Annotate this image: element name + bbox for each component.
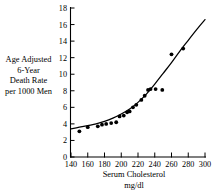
x-axis-label: Serum Cholesterol mg/dl [55,170,213,191]
y-tick-label: 12 [59,54,67,63]
data-point [100,123,104,127]
y-axis-label-line-4: per 1000 Men [0,87,57,98]
x-axis-tick-labels: 140160180200220240260280300 [65,160,211,169]
x-tick-label: 180 [98,160,110,169]
x-tick-label: 160 [82,160,94,169]
data-point [149,87,153,91]
x-tick-label: 280 [182,160,194,169]
x-tick-label: 220 [132,160,144,169]
y-axis-tick-labels: 024681012141618 [59,4,67,162]
scatter-chart-figure: 024681012141618 140160180200220240260280… [0,0,213,194]
x-tick-label: 300 [199,160,211,169]
data-point [154,87,158,91]
x-tick-label: 200 [115,160,127,169]
y-tick-label: 18 [59,4,67,13]
y-axis-ticks [71,8,75,157]
fitted-curve [71,20,205,129]
data-point [96,124,100,128]
y-axis-label-line-3: Death Rate [0,76,57,87]
data-point [122,114,126,118]
y-tick-label: 6 [63,103,67,112]
data-points [77,47,185,134]
y-axis-label-line-1: Age Adjusted [0,55,57,66]
data-point [160,88,164,92]
data-point [131,105,135,109]
x-tick-label: 260 [165,160,177,169]
x-tick-label: 240 [149,160,161,169]
x-axis-label-line-2: mg/dl [55,181,213,192]
y-tick-label: 2 [63,136,67,145]
data-point [104,122,108,126]
data-point [181,47,185,51]
data-point [77,129,81,133]
data-point [134,103,138,107]
data-point [114,120,118,124]
data-point [86,125,90,129]
data-point [143,94,147,98]
y-tick-label: 8 [63,87,67,96]
data-point [109,121,113,125]
x-tick-label: 140 [65,160,77,169]
y-tick-label: 16 [59,21,67,30]
y-axis-label-line-2: 6-Year [0,66,57,77]
chart-axes [70,7,206,158]
y-tick-label: 4 [63,120,67,129]
y-axis-label: Age Adjusted 6-Year Death Rate per 1000 … [0,55,57,97]
data-point [118,115,122,119]
data-point [128,110,132,114]
y-tick-label: 10 [59,70,67,79]
y-tick-label: 14 [59,37,67,46]
data-point [139,98,143,102]
x-axis-label-line-1: Serum Cholesterol [55,170,213,181]
data-point [170,52,174,56]
